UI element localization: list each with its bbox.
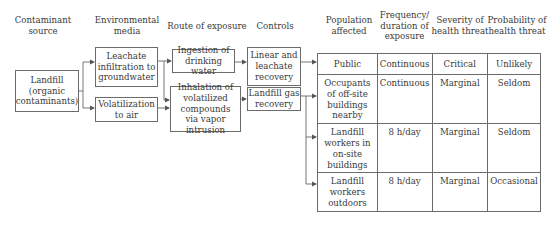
node-landfill-gas-recovery: Landfill gas recovery xyxy=(247,87,301,111)
cell-probability: Unlikely xyxy=(488,54,541,75)
cell-severity: Marginal xyxy=(432,124,488,173)
table-row: Landfill workers outdoors 8 h/day Margin… xyxy=(318,173,541,211)
cell-population: Landfill workers outdoors xyxy=(318,173,378,211)
node-linear-leachate-recovery: Linear and leachate recovery xyxy=(247,47,301,86)
population-risk-table: Public Continuous Critical Unlikely Occu… xyxy=(317,53,541,212)
cell-frequency: Continuous xyxy=(377,54,432,75)
cell-probability: Seldom xyxy=(488,75,541,124)
table-row: Landfill workers in on-site buildings 8 … xyxy=(318,124,541,173)
node-landfill-source: Landfill (organic contaminants) xyxy=(15,70,79,112)
cell-population: Landfill workers in on-site buildings xyxy=(318,124,378,173)
cell-frequency: Continuous xyxy=(377,75,432,124)
node-volatilization: Volatilization to air xyxy=(95,97,158,122)
table-row: Public Continuous Critical Unlikely xyxy=(318,54,541,75)
node-inhalation: Inhalation of volatilized compounds via … xyxy=(170,86,241,132)
cell-frequency: 8 h/day xyxy=(377,124,432,173)
cell-severity: Marginal xyxy=(432,75,488,124)
cell-population: Occupants of off-site buildings nearby xyxy=(318,75,378,124)
node-ingestion: Ingestion of drinking water xyxy=(172,49,235,73)
table-row: Occupants of off-site buildings nearby C… xyxy=(318,75,541,124)
cell-frequency: 8 h/day xyxy=(377,173,432,211)
node-leachate-infiltration: Leachate infiltration to groundwater xyxy=(95,47,158,87)
cell-probability: Occasional xyxy=(488,173,541,211)
cell-population: Public xyxy=(318,54,378,75)
cell-severity: Critical xyxy=(432,54,488,75)
cell-severity: Marginal xyxy=(432,173,488,211)
cell-probability: Seldom xyxy=(488,124,541,173)
